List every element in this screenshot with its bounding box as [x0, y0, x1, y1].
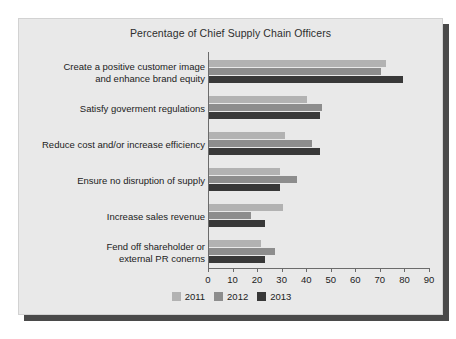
x-axis-tick-label: 60: [343, 274, 367, 285]
x-axis-tick: [257, 268, 258, 272]
bar-2011: [209, 168, 280, 175]
legend-swatch-2012: [214, 292, 223, 301]
category-label-line: and enhance brand equity: [20, 73, 205, 85]
x-axis-tick: [404, 268, 405, 272]
bar-2012: [209, 68, 381, 75]
chart-screenshot: Percentage of Chief Supply Chain Officer…: [0, 0, 456, 339]
y-axis-line: [208, 52, 209, 268]
bar-2013: [209, 256, 265, 263]
bar-2012: [209, 176, 297, 183]
category-label-line: Ensure no disruption of supply: [20, 175, 205, 187]
category-label-line: Satisfy goverment regulations: [20, 103, 205, 115]
category-label: Increase sales revenue: [20, 211, 205, 223]
x-axis-tick-label: 50: [319, 274, 343, 285]
legend-label: 2011: [185, 291, 205, 302]
bar-2013: [209, 184, 280, 191]
chart-legend: 201120122013: [19, 291, 444, 302]
bars-container: [209, 168, 297, 192]
bar-2013: [209, 112, 320, 119]
category-label: Reduce cost and/or increase efficiency: [20, 139, 205, 151]
bar-2012: [209, 104, 322, 111]
legend-label: 2013: [270, 291, 291, 302]
bar-2012: [209, 248, 275, 255]
bar-2012: [209, 212, 251, 219]
legend-swatch-2013: [257, 292, 266, 301]
x-axis-tick-label: 10: [221, 274, 245, 285]
bar-2011: [209, 240, 261, 247]
bars-container: [209, 60, 403, 84]
x-axis-tick: [355, 268, 356, 272]
x-axis-tick-label: 90: [417, 274, 441, 285]
bars-container: [209, 204, 283, 228]
bar-2013: [209, 76, 403, 83]
x-axis-tick-label: 70: [368, 274, 392, 285]
x-axis-tick-label: 30: [270, 274, 294, 285]
bar-2011: [209, 132, 285, 139]
category-label: Ensure no disruption of supply: [20, 175, 205, 187]
category-label: Fend off shareholder orexternal PR coner…: [20, 241, 205, 264]
category-label-line: Reduce cost and/or increase efficiency: [20, 139, 205, 151]
category-label-line: external PR conerns: [20, 253, 205, 265]
x-axis-tick: [380, 268, 381, 272]
category-label-line: Fend off shareholder or: [20, 241, 205, 253]
x-axis-tick-label: 40: [294, 274, 318, 285]
x-axis-tick: [282, 268, 283, 272]
x-axis-tick: [306, 268, 307, 272]
chart-panel: Percentage of Chief Supply Chain Officer…: [18, 18, 443, 315]
x-axis-tick: [429, 268, 430, 272]
chart-title: Percentage of Chief Supply Chain Officer…: [19, 27, 442, 39]
bar-2011: [209, 60, 386, 67]
x-axis-tick: [331, 268, 332, 272]
legend-item-2011: 2011: [172, 291, 205, 302]
category-label: Satisfy goverment regulations: [20, 103, 205, 115]
legend-item-2013: 2013: [257, 291, 291, 302]
category-label-line: Create a positive customer image: [20, 61, 205, 73]
bars-container: [209, 132, 320, 156]
plot-area: Create a positive customer imageand enha…: [19, 52, 444, 280]
legend-item-2012: 2012: [214, 291, 248, 302]
x-axis-tick-label: 20: [245, 274, 269, 285]
bar-2013: [209, 220, 265, 227]
bars-container: [209, 240, 275, 264]
category-label: Create a positive customer imageand enha…: [20, 61, 205, 84]
x-axis-line: [208, 268, 430, 269]
bar-2013: [209, 148, 320, 155]
x-axis-tick: [233, 268, 234, 272]
legend-label: 2012: [227, 291, 248, 302]
bar-2012: [209, 140, 312, 147]
x-axis-tick-label: 0: [196, 274, 220, 285]
bar-2011: [209, 96, 307, 103]
bar-2011: [209, 204, 283, 211]
legend-swatch-2011: [172, 292, 181, 301]
bars-container: [209, 96, 322, 120]
x-axis-tick-label: 80: [392, 274, 416, 285]
category-label-line: Increase sales revenue: [20, 211, 205, 223]
x-axis-tick: [208, 268, 209, 272]
